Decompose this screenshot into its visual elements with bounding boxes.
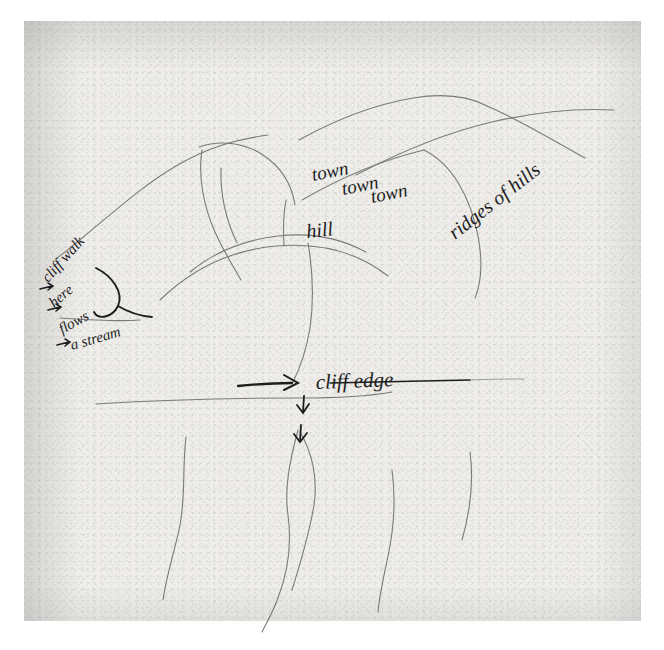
label-note-here: here [46, 281, 77, 310]
label-ridges-of-hills: ridges of hills [444, 158, 545, 244]
label-hill: hill [305, 217, 334, 242]
handwriting-layer: town town town hill ridges of hills clif… [0, 0, 664, 650]
label-cliff-edge: cliff edge [315, 367, 393, 394]
label-note-cliff-walk: cliff walk [38, 233, 87, 285]
scan-canvas: town town town hill ridges of hills clif… [0, 0, 664, 650]
